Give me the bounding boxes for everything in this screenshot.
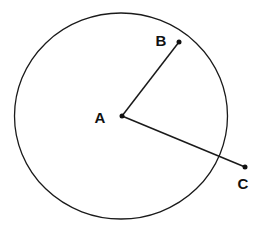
segment-ac [122,116,245,167]
point-b [177,40,182,45]
label-b: B [156,32,167,49]
point-a [120,114,125,119]
segment-ab [122,42,179,116]
label-a: A [95,109,106,126]
geometry-diagram: A B C [0,0,264,228]
label-c: C [238,175,249,192]
point-c [243,165,248,170]
